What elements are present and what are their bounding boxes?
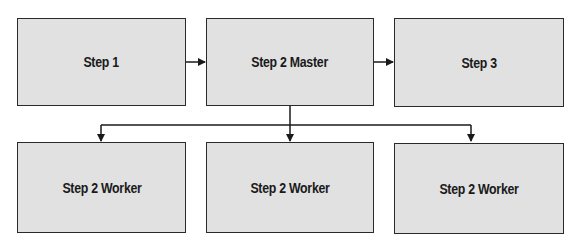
node-worker3: Step 2 Worker: [394, 143, 564, 234]
node-label: Step 3: [461, 55, 496, 71]
node-step3: Step 3: [394, 18, 564, 107]
node-label: Step 2 Worker: [62, 180, 141, 196]
node-label: Step 1: [84, 54, 119, 70]
node-worker2: Step 2 Worker: [206, 142, 374, 233]
node-label: Step 2 Master: [252, 54, 329, 70]
node-label: Step 2 Worker: [439, 181, 518, 197]
node-label: Step 2 Worker: [250, 180, 329, 196]
node-worker1: Step 2 Worker: [17, 142, 186, 233]
node-step2-master: Step 2 Master: [206, 18, 374, 106]
node-step1: Step 1: [17, 18, 186, 106]
